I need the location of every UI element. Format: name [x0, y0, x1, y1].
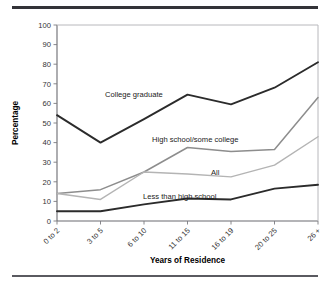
- y-tick-label: 90: [43, 40, 51, 49]
- series-annotation-college: College graduate: [105, 90, 163, 99]
- x-tick-label: 6 to 10: [126, 226, 149, 249]
- y-tick: 50: [43, 119, 57, 128]
- x-tick-label: 0 to 2: [42, 226, 62, 246]
- y-tick: 40: [43, 138, 57, 147]
- x-tick: 16 to 19: [210, 221, 236, 252]
- x-tick-label: 20 to 25: [253, 226, 279, 252]
- y-tick-label: 50: [43, 119, 51, 128]
- x-tick: 0 to 2: [42, 221, 62, 246]
- bottom-rule: [12, 275, 318, 277]
- series-annotation-all: All: [211, 168, 220, 177]
- x-tick-label: 26 +: [305, 226, 322, 243]
- x-tick: 26 +: [305, 221, 322, 243]
- x-tick-label: 3 to 5: [85, 226, 105, 246]
- y-tick-label: 20: [43, 178, 51, 187]
- x-tick-label: 11 to 15: [167, 226, 192, 251]
- plot-area: 01020304050607080901000 to 23 to 56 to 1…: [0, 9, 330, 275]
- series-line: [57, 62, 318, 142]
- x-tick: 20 to 25: [253, 221, 279, 252]
- y-tick: 60: [43, 99, 57, 108]
- y-tick: 80: [43, 60, 57, 69]
- y-tick-label: 80: [43, 60, 51, 69]
- x-tick: 6 to 10: [126, 221, 149, 249]
- x-tick-label: 16 to 19: [210, 226, 236, 252]
- line-chart: 01020304050607080901000 to 23 to 56 to 1…: [0, 9, 330, 267]
- y-tick: 70: [43, 80, 57, 89]
- y-tick: 100: [38, 21, 57, 30]
- y-tick: 90: [43, 40, 57, 49]
- y-tick-label: 0: [47, 217, 51, 226]
- series-annotation-highschool: High school/some college: [152, 135, 239, 144]
- x-tick: 11 to 15: [167, 221, 192, 251]
- y-tick-label: 40: [43, 138, 51, 147]
- y-tick: 20: [43, 178, 57, 187]
- figure-container: 01020304050607080901000 to 23 to 56 to 1…: [0, 0, 330, 285]
- y-tick-label: 30: [43, 158, 51, 167]
- x-axis-title: Years of Residence: [150, 256, 226, 265]
- series-annotation-lessthan: Less than high school: [143, 192, 217, 201]
- y-axis-title: Percentage: [11, 100, 20, 145]
- x-tick: 3 to 5: [85, 221, 105, 246]
- series-line: [57, 98, 318, 194]
- y-tick: 10: [43, 197, 57, 206]
- y-tick-label: 100: [38, 21, 51, 30]
- y-tick: 30: [43, 158, 57, 167]
- y-tick-label: 70: [43, 80, 51, 89]
- y-tick-label: 10: [43, 197, 51, 206]
- y-tick-label: 60: [43, 99, 51, 108]
- y-tick: 0: [47, 217, 57, 226]
